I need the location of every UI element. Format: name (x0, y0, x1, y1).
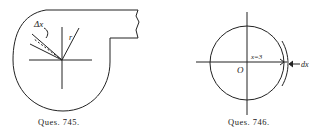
delta-leader (44, 28, 48, 38)
ring-arc (282, 41, 288, 86)
wedge-dash-1 (34, 39, 62, 60)
caption-746: Ques. 746. (228, 117, 270, 127)
dx-label: dx (301, 60, 309, 69)
broken-edge (136, 10, 139, 38)
x-value-label: x=3 (250, 53, 263, 61)
figure-746 (196, 12, 300, 115)
origin-label: O (237, 65, 244, 75)
figure-745 (13, 10, 139, 111)
caption-745: Ques. 745. (38, 117, 80, 127)
delta-x-label: Δx (33, 19, 43, 29)
diagram-canvas: Δx r O x=3 dx (0, 0, 327, 131)
dx-arrow-head (289, 61, 293, 67)
